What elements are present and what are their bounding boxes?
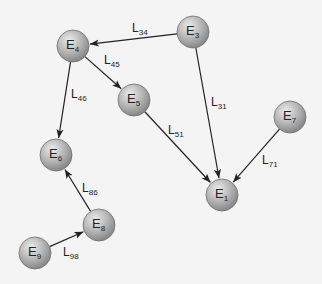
edges-layer — [50, 34, 280, 247]
nodes-layer: E1E3E4E5E6E7E8E9 — [19, 16, 306, 269]
node-e4: E4 — [57, 30, 89, 62]
edge-label-l86: L86 — [82, 181, 98, 197]
edge-label-l71: L71 — [262, 153, 278, 169]
node-e9: E9 — [19, 237, 51, 269]
edge-l51 — [145, 112, 211, 183]
edge-label-l31: L31 — [211, 95, 227, 111]
node-e6: E6 — [40, 139, 72, 171]
node-e5: E5 — [118, 84, 150, 116]
node-e7: E7 — [274, 101, 306, 133]
node-e3: E3 — [177, 16, 209, 48]
edge-l34 — [90, 34, 177, 44]
edge-label-l98: L98 — [63, 245, 79, 261]
node-e1: E1 — [206, 179, 238, 211]
node-e8: E8 — [83, 209, 115, 241]
edge-label-l46: L46 — [71, 87, 87, 103]
edge-label-l51: L51 — [168, 123, 184, 139]
edge-l31 — [196, 48, 219, 179]
edge-label-l45: L45 — [104, 53, 120, 69]
edge-l71 — [233, 129, 279, 182]
network-diagram: E1E3E4E5E6E7E8E9 L34L45L46L31L51L71L86L9… — [0, 0, 322, 284]
edge-l46 — [59, 62, 71, 138]
edge-label-l34: L34 — [132, 21, 148, 37]
